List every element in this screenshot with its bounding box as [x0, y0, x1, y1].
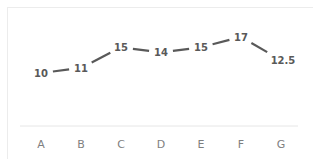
x-axis-label: G: [277, 138, 286, 151]
data-labels: 10111514151712.5: [34, 32, 295, 79]
line-segment: [173, 49, 189, 51]
data-label: 17: [234, 32, 248, 43]
line-segment: [251, 43, 267, 52]
x-axis-label: D: [157, 138, 165, 151]
line-segment: [53, 69, 69, 71]
data-label: 10: [34, 68, 48, 79]
line-segment: [92, 53, 111, 63]
x-axis-label: A: [37, 138, 45, 151]
data-label: 11: [74, 63, 88, 74]
data-label: 15: [114, 42, 128, 53]
line-chart: 10111514151712.5 ABCDEFG: [0, 0, 313, 159]
x-axis-label: C: [117, 138, 125, 151]
data-label: 15: [194, 42, 208, 53]
line-segment: [133, 49, 149, 51]
x-axis-labels: ABCDEFG: [37, 138, 285, 151]
line-segment: [213, 40, 230, 44]
data-label: 14: [154, 47, 168, 58]
x-axis-label: F: [238, 138, 244, 151]
x-axis-label: B: [77, 138, 85, 151]
x-axis-label: E: [198, 138, 205, 151]
data-label: 12.5: [271, 55, 296, 66]
